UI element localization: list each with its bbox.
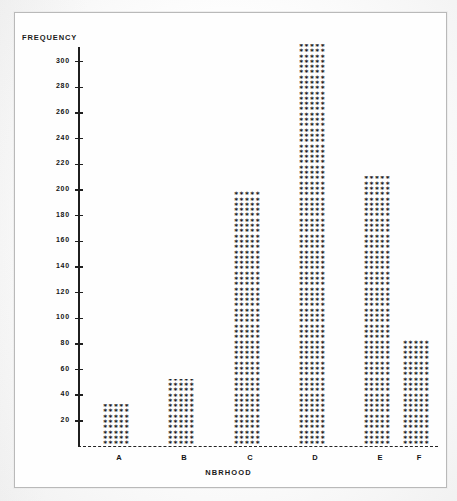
x-axis-label-d: D [295, 453, 335, 462]
y-axis-tick-label: 160 [22, 236, 70, 246]
y-axis-tick-label-text: 20 [26, 416, 70, 423]
y-axis-tick-label: 140 [22, 262, 70, 272]
y-axis-tick-label: 80 [22, 339, 70, 349]
y-axis-tick-label: 100 [22, 313, 70, 323]
y-axis-tick [75, 241, 83, 242]
y-axis-tick [75, 87, 83, 88]
y-axis-tick [75, 394, 83, 395]
y-axis-tick [75, 266, 83, 267]
y-axis-tick [75, 138, 83, 139]
y-axis-tick-label-text: 260 [26, 108, 70, 115]
y-axis-line [78, 47, 80, 447]
bar-fill-row: ***** [403, 441, 435, 446]
y-axis-tick-label: 200 [22, 185, 70, 195]
bar-chart: FREQUENCY 204060801001201401601802002202… [0, 0, 457, 501]
y-axis-tick-label: 60 [22, 365, 70, 375]
y-axis-tick [75, 164, 83, 165]
x-axis-title: NBRHOOD [0, 468, 457, 477]
y-axis-tick [75, 318, 83, 319]
bar-fill-row: ***** [299, 441, 331, 446]
y-axis-tick [75, 369, 83, 370]
y-axis-tick-label: 220 [22, 159, 70, 169]
bar-a: **************************************** [103, 404, 135, 446]
y-axis-tick-label: 120 [22, 288, 70, 298]
y-axis-title: FREQUENCY [22, 33, 77, 42]
y-axis-tick-label-text: 180 [26, 211, 70, 218]
y-axis-tick-label: 20 [22, 416, 70, 426]
y-axis-tick-label: 300 [22, 57, 70, 67]
y-axis-tick [75, 61, 83, 62]
y-axis-tick [75, 112, 83, 113]
y-axis-tick-label-text: 100 [26, 313, 70, 320]
bar-fill-row: ***** [234, 441, 266, 446]
bar-fill-row: ***** [364, 441, 396, 446]
bar-f: ****************************************… [403, 340, 435, 446]
y-axis-tick-label: 280 [22, 82, 70, 92]
y-axis-tick-label-text: 60 [26, 365, 70, 372]
y-axis-tick-label: 240 [22, 134, 70, 144]
y-axis-tick-label-text: 240 [26, 134, 70, 141]
x-axis-label-a: A [99, 453, 139, 462]
y-axis-tick-label-text: 220 [26, 159, 70, 166]
y-axis-tick [75, 420, 83, 421]
y-axis-tick-label-text: 80 [26, 339, 70, 346]
y-axis-tick-label-text: 200 [26, 185, 70, 192]
y-axis-tick-label-text: 120 [26, 288, 70, 295]
x-axis-label-f: F [399, 453, 439, 462]
x-axis-label-b: B [164, 453, 204, 462]
bar-d: ****************************************… [299, 44, 331, 447]
bar-c: ****************************************… [234, 190, 266, 447]
y-axis-tick-label: 180 [22, 211, 70, 221]
y-axis-tick-label-text: 300 [26, 57, 70, 64]
y-axis-tick [75, 292, 83, 293]
y-axis-tick-label-text: 160 [26, 236, 70, 243]
y-axis-tick-label-text: 40 [26, 390, 70, 397]
bar-fill-row: ***** [103, 441, 135, 446]
x-axis-label-c: C [230, 453, 270, 462]
x-axis-label-e: E [360, 453, 400, 462]
y-axis-tick [75, 189, 83, 190]
bar-fill-row: ***** [168, 441, 200, 446]
y-axis-tick [75, 215, 83, 216]
y-axis-tick-label-text: 140 [26, 262, 70, 269]
bar-e: ****************************************… [364, 176, 396, 447]
bar-b: ****************************************… [168, 379, 200, 447]
y-axis-tick-label-text: 280 [26, 82, 70, 89]
y-axis-tick [75, 343, 83, 344]
y-axis-tick-label: 40 [22, 390, 70, 400]
y-axis-tick-label: 260 [22, 108, 70, 118]
